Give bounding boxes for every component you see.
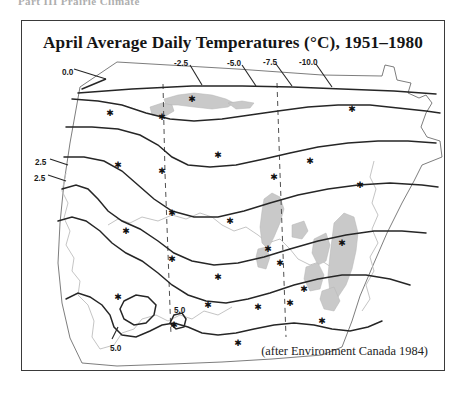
weather-station-marker: ✱: [270, 172, 278, 182]
isotherm-label: -10.0: [299, 58, 318, 67]
svg-text:✱: ✱: [234, 338, 242, 348]
isotherm-label: 2.5: [35, 158, 47, 167]
isotherm-label: 2.5: [34, 174, 46, 183]
weather-station-marker: ✱: [264, 244, 272, 254]
svg-text:✱: ✱: [114, 160, 122, 170]
isotherm-c: [62, 185, 426, 265]
weather-station-marker: ✱: [300, 284, 308, 294]
svg-text:✱: ✱: [188, 94, 196, 104]
weather-station-marker: ✱: [214, 272, 222, 282]
svg-text:✱: ✱: [204, 300, 212, 310]
isotherm-0: [82, 79, 106, 89]
weather-station-marker: ✱: [122, 226, 130, 236]
weather-station-marker: ✱: [158, 166, 166, 176]
weather-station-marker: ✱: [338, 238, 346, 248]
svg-text:✱: ✱: [306, 156, 314, 166]
weather-station-marker: ✱: [170, 320, 178, 330]
isotherm-0.0: [72, 99, 440, 121]
weather-station-marker: ✱: [106, 108, 114, 118]
isotherm-label: 5.0: [174, 306, 186, 315]
weather-station-marker: ✱: [214, 150, 222, 160]
isotherm-top-frame: [78, 86, 436, 94]
weather-station-marker: ✱: [188, 94, 196, 104]
svg-text:✱: ✱: [168, 254, 176, 264]
weather-station-marker: ✱: [348, 104, 356, 114]
isotherm-label: -7.5: [263, 58, 278, 67]
svg-text:✱: ✱: [270, 172, 278, 182]
svg-text:✱: ✱: [286, 298, 294, 308]
isotherm-closed-5.0: [120, 295, 156, 325]
svg-text:✱: ✱: [114, 292, 122, 302]
isotherm-label: 0.0: [62, 68, 74, 77]
svg-text:✱: ✱: [170, 320, 178, 330]
svg-text:✱: ✱: [356, 180, 364, 190]
svg-text:✱: ✱: [106, 108, 114, 118]
weather-station-marker: ✱: [306, 156, 314, 166]
svg-text:✱: ✱: [276, 258, 284, 268]
isotherm-label: -2.5: [174, 59, 189, 68]
svg-text:✱: ✱: [158, 166, 166, 176]
figure-frame: April Average Daily Temperatures (°C), 1…: [21, 20, 445, 371]
weather-station-marker: ✱: [204, 300, 212, 310]
weather-station-marker: ✱: [114, 292, 122, 302]
weather-station-marker: ✱: [356, 180, 364, 190]
weather-station-markers: ✱✱✱✱✱✱✱✱✱✱✱✱✱✱✱✱✱✱✱✱✱✱✱✱✱✱: [106, 94, 364, 348]
figure-title: April Average Daily Temperatures (°C), 1…: [22, 33, 444, 53]
weather-station-marker: ✱: [318, 316, 326, 326]
svg-text:✱: ✱: [214, 150, 222, 160]
svg-text:✱: ✱: [158, 112, 166, 122]
weather-station-marker: ✱: [158, 112, 166, 122]
svg-text:✱: ✱: [348, 104, 356, 114]
lakes-layer: [150, 93, 358, 311]
weather-station-marker: ✱: [226, 216, 234, 226]
svg-text:✱: ✱: [226, 216, 234, 226]
svg-text:✱: ✱: [122, 226, 130, 236]
weather-station-marker: ✱: [168, 208, 176, 218]
weather-station-marker: ✱: [168, 254, 176, 264]
weather-station-marker: ✱: [114, 160, 122, 170]
weather-station-marker: ✱: [254, 302, 262, 312]
svg-text:✱: ✱: [264, 244, 272, 254]
svg-text:✱: ✱: [254, 302, 262, 312]
weather-station-marker: ✱: [286, 298, 294, 308]
isotherm-label: 5.0: [110, 344, 122, 353]
isotherm-label: -5.0: [227, 59, 242, 68]
map-canvas: ✱✱✱✱✱✱✱✱✱✱✱✱✱✱✱✱✱✱✱✱✱✱✱✱✱✱ 0.0-2.5-5.0-7…: [22, 53, 446, 371]
svg-text:✱: ✱: [338, 238, 346, 248]
weather-station-marker: ✱: [234, 338, 242, 348]
svg-text:✱: ✱: [214, 272, 222, 282]
svg-text:✱: ✱: [168, 208, 176, 218]
running-head: Part III Prairie Climate: [18, 0, 318, 7]
figure-credit: (after Environment Canada 1984): [261, 344, 428, 359]
svg-text:✱: ✱: [300, 284, 308, 294]
svg-text:✱: ✱: [318, 316, 326, 326]
weather-station-marker: ✱: [276, 258, 284, 268]
